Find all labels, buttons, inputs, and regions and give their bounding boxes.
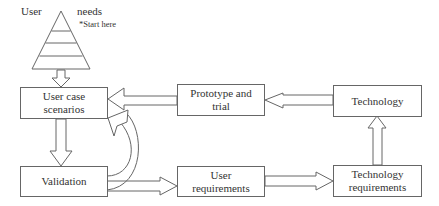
- arrow-prototype-to-scenarios: [108, 88, 177, 110]
- node-label: Prototype and trial: [181, 87, 261, 113]
- node-label: Validation: [41, 175, 86, 188]
- node-user-requirements: User requirements: [177, 166, 265, 197]
- arrow-validation-to-userreq: [107, 177, 177, 195]
- arrow-userreq-to-techreq: [265, 172, 333, 190]
- node-label: User requirements: [184, 169, 258, 195]
- curved-arrow-validation-to-scenarios: [107, 110, 138, 190]
- pyramid-left-label: User: [21, 5, 42, 17]
- node-validation: Validation: [20, 166, 108, 197]
- arrow-pyramid-to-scenarios: [52, 70, 70, 87]
- node-user-case-scenarios: User case scenarios: [20, 87, 108, 119]
- arrow-scenarios-to-validation: [50, 119, 72, 166]
- node-technology: Technology: [333, 85, 422, 117]
- node-label: User case scenarios: [34, 90, 94, 116]
- node-prototype-and-trial: Prototype and trial: [177, 84, 265, 116]
- node-label: Technology: [352, 95, 404, 108]
- node-technology-requirements: Technology requirements: [333, 165, 422, 197]
- node-label: Technology requirements: [338, 168, 418, 194]
- start-here-annotation: *Start here: [79, 19, 116, 29]
- arrow-technology-to-prototype: [265, 93, 333, 108]
- pyramid-right-label: needs: [77, 5, 102, 17]
- arrow-techreq-to-technology: [368, 116, 386, 165]
